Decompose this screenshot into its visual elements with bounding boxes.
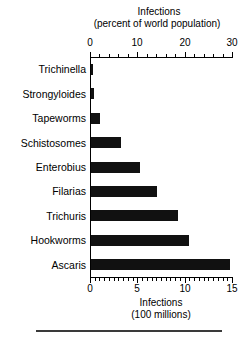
bottom-axis-minor-tick [161, 278, 162, 281]
top-axis-major-tick [232, 52, 233, 57]
top-axis-minor-tick [213, 54, 214, 57]
top-axis-minor-tick [194, 54, 195, 57]
bottom-divider-rule [36, 330, 222, 332]
top-axis-tick-label: 30 [220, 37, 244, 48]
top-axis-minor-tick [128, 54, 129, 57]
top-axis-minor-tick [109, 54, 110, 57]
bottom-axis-minor-tick [223, 278, 224, 281]
bottom-axis-minor-tick [189, 278, 190, 281]
category-label: Filarias [0, 185, 86, 197]
top-axis-line [90, 57, 233, 58]
bar [91, 186, 157, 197]
category-label: Enterobius [0, 161, 86, 173]
bottom-axis-minor-tick [166, 278, 167, 281]
category-label: Strongyloides [0, 88, 86, 100]
bottom-axis-tick-label: 15 [220, 283, 244, 294]
bottom-axis-tick-label: 10 [173, 283, 197, 294]
bottom-axis-minor-tick [170, 278, 171, 281]
bar [91, 162, 140, 173]
category-label: Trichuris [0, 210, 86, 222]
bottom-axis-title-line1: Infections [90, 297, 232, 309]
bottom-axis-minor-tick [95, 278, 96, 281]
top-axis-title-line1: Infections [70, 6, 248, 18]
top-axis-minor-tick [223, 54, 224, 57]
bottom-axis-minor-tick [213, 278, 214, 281]
bar [91, 88, 94, 99]
bottom-axis-minor-tick [123, 278, 124, 281]
bottom-axis-minor-tick [109, 278, 110, 281]
bottom-axis-minor-tick [128, 278, 129, 281]
category-label: Tapeworms [0, 112, 86, 124]
top-axis-major-tick [90, 52, 91, 57]
top-axis-minor-tick [175, 54, 176, 57]
top-axis-minor-tick [99, 54, 100, 57]
top-axis-minor-tick [118, 54, 119, 57]
category-label: Ascaris [0, 259, 86, 271]
bar [91, 113, 100, 124]
bottom-axis-minor-tick [142, 278, 143, 281]
bottom-axis-minor-tick [180, 278, 181, 281]
top-axis-minor-tick [147, 54, 148, 57]
bar [91, 259, 230, 270]
bottom-axis-minor-tick [114, 278, 115, 281]
top-axis-minor-tick [204, 54, 205, 57]
bottom-axis-title-line2: (100 millions) [90, 309, 232, 321]
top-axis-title-line2: (percent of world population) [62, 18, 252, 30]
bar [91, 64, 93, 75]
category-label: Schistosomes [0, 137, 86, 149]
bar [91, 210, 178, 221]
bar-chart-figure: Infections (percent of world population)… [0, 0, 252, 340]
top-axis-tick-label: 20 [173, 37, 197, 48]
bottom-axis-minor-tick [133, 278, 134, 281]
bottom-axis-minor-tick [194, 278, 195, 281]
top-axis-major-tick [137, 52, 138, 57]
bottom-axis-minor-tick [152, 278, 153, 281]
bottom-axis-minor-tick [208, 278, 209, 281]
bottom-axis-minor-tick [204, 278, 205, 281]
top-axis-minor-tick [156, 54, 157, 57]
top-axis-tick-label: 10 [125, 37, 149, 48]
bar [91, 235, 189, 246]
bottom-axis-minor-tick [156, 278, 157, 281]
category-label: Trichinella [0, 63, 86, 75]
category-label: Hookworms [0, 234, 86, 246]
bottom-axis-minor-tick [147, 278, 148, 281]
bottom-axis-tick-label: 5 [125, 283, 149, 294]
bottom-axis-minor-tick [227, 278, 228, 281]
bottom-axis-minor-tick [99, 278, 100, 281]
bottom-axis-tick-label: 0 [78, 283, 102, 294]
bottom-axis-minor-tick [218, 278, 219, 281]
bottom-axis-minor-tick [199, 278, 200, 281]
bottom-axis-minor-tick [104, 278, 105, 281]
top-axis-minor-tick [166, 54, 167, 57]
top-axis-tick-label: 0 [78, 37, 102, 48]
bottom-axis-minor-tick [175, 278, 176, 281]
bottom-axis-minor-tick [118, 278, 119, 281]
bar [91, 137, 121, 148]
top-axis-major-tick [185, 52, 186, 57]
